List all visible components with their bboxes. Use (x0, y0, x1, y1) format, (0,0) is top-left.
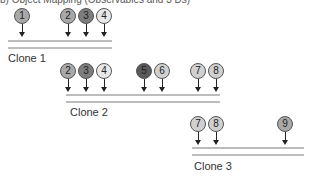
object-node-4: 4 (96, 63, 112, 79)
arrowhead-icon (65, 87, 71, 92)
arrowhead-icon (141, 87, 147, 92)
object-node-7: 7 (190, 116, 206, 132)
object-node-9: 9 (277, 116, 293, 132)
arrowhead-icon (195, 140, 201, 145)
arrowhead-icon (159, 87, 165, 92)
clone-label: Clone 2 (70, 106, 108, 118)
arrowhead-icon (83, 32, 89, 37)
object-node-6: 6 (154, 63, 170, 79)
arrowhead-icon (213, 140, 219, 145)
clone-baseline (8, 40, 112, 42)
object-node-2: 2 (60, 8, 76, 24)
object-node-3: 3 (78, 8, 94, 24)
arrowhead-icon (101, 87, 107, 92)
arrowhead-icon (101, 32, 107, 37)
clone-label: Clone 1 (8, 52, 46, 64)
clone-baseline (66, 94, 220, 96)
figure-caption: b) Object Mapping (Observables and 3 Ds) (0, 0, 190, 5)
object-node-8: 8 (208, 116, 224, 132)
arrowhead-icon (83, 87, 89, 92)
clone-baseline (192, 154, 304, 156)
arrowhead-icon (213, 87, 219, 92)
clone-label: Clone 3 (194, 160, 232, 172)
object-node-4: 4 (96, 8, 112, 24)
object-node-8: 8 (208, 63, 224, 79)
object-node-5: 5 (136, 63, 152, 79)
object-node-2: 2 (60, 63, 76, 79)
object-node-7: 7 (190, 63, 206, 79)
clone-baseline (192, 147, 304, 149)
object-node-3: 3 (78, 63, 94, 79)
arrowhead-icon (195, 87, 201, 92)
arrowhead-icon (282, 140, 288, 145)
clone-baseline (8, 47, 112, 49)
clone-baseline (66, 101, 220, 103)
arrowhead-icon (65, 32, 71, 37)
arrowhead-icon (19, 32, 25, 37)
object-node-1: 1 (14, 8, 30, 24)
